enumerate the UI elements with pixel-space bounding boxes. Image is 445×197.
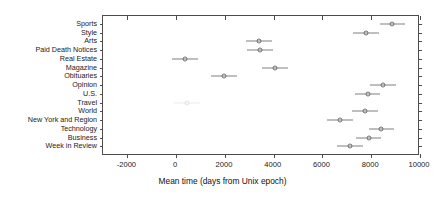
x-axis-tick-top (176, 16, 177, 20)
x-axis-tick-top (127, 16, 128, 20)
y-axis-tick (100, 129, 103, 130)
data-marker (185, 100, 190, 105)
y-axis-label: Travel (0, 97, 97, 106)
data-marker (362, 109, 367, 114)
y-axis-tick (100, 111, 103, 112)
data-marker (257, 39, 262, 44)
data-marker (257, 48, 262, 53)
x-axis-tick (274, 154, 275, 158)
y-axis-tick-right (418, 138, 422, 139)
data-marker (390, 21, 395, 26)
y-axis-tick (100, 85, 103, 86)
x-axis-title: Mean time (days from Unix epoch) (0, 176, 445, 186)
y-axis-label: New York and Region (0, 115, 97, 124)
y-axis-tick (100, 41, 103, 42)
x-axis-tick-label: 10000 (408, 160, 429, 169)
y-axis-tick (100, 94, 103, 95)
y-axis-label: Business (0, 132, 97, 141)
data-marker (221, 74, 226, 79)
y-axis-label: Sports (0, 18, 97, 27)
y-axis-label: Technology (0, 123, 97, 132)
y-axis-label: Arts (0, 36, 97, 45)
x-axis-tick (225, 154, 226, 158)
data-marker (338, 118, 343, 123)
x-axis-tick-label: 0 (173, 160, 177, 169)
y-axis-tick-right (418, 103, 422, 104)
y-axis-tick (100, 68, 103, 69)
x-axis-tick (176, 154, 177, 158)
y-axis-tick (100, 33, 103, 34)
data-marker (379, 126, 384, 131)
y-axis-tick (100, 76, 103, 77)
data-marker (365, 91, 370, 96)
x-axis-tick-top (322, 16, 323, 20)
y-axis-tick (100, 24, 103, 25)
data-marker (381, 83, 386, 88)
plot-area (102, 15, 419, 155)
y-axis-label: U.S. (0, 88, 97, 97)
y-axis-label: Paid Death Notices (0, 45, 97, 54)
y-axis-tick (100, 103, 103, 104)
x-axis-tick (322, 154, 323, 158)
y-axis-label: Opinion (0, 80, 97, 89)
y-axis-tick (100, 120, 103, 121)
y-axis-tick (100, 146, 103, 147)
data-marker (366, 135, 371, 140)
x-axis-tick-top (420, 16, 421, 20)
y-axis-tick (100, 50, 103, 51)
y-axis-tick-right (418, 111, 422, 112)
y-axis-tick-right (418, 85, 422, 86)
y-axis-label: Real Estate (0, 53, 97, 62)
data-marker (348, 144, 353, 149)
y-axis-tick-right (418, 68, 422, 69)
y-axis-label: Style (0, 27, 97, 36)
x-axis-tick-label: 4000 (264, 160, 281, 169)
y-axis-label: Week in Review (0, 141, 97, 150)
y-axis-tick-right (418, 50, 422, 51)
y-axis-tick (100, 138, 103, 139)
y-axis-tick-right (418, 120, 422, 121)
y-axis-tick-right (418, 76, 422, 77)
x-axis-tick-label: -2000 (117, 160, 136, 169)
data-marker (272, 65, 277, 70)
x-axis-tick-label: 2000 (215, 160, 232, 169)
y-axis-tick-right (418, 146, 422, 147)
y-axis-label: World (0, 106, 97, 115)
x-axis-tick-label: 8000 (362, 160, 379, 169)
x-axis-tick-top (274, 16, 275, 20)
x-axis-tick (127, 154, 128, 158)
x-axis-tick-label: 6000 (313, 160, 330, 169)
y-axis-tick-right (418, 33, 422, 34)
y-axis-tick-right (418, 24, 422, 25)
y-axis-label: Magazine (0, 62, 97, 71)
chart-root: SportsStyleArtsPaid Death NoticesReal Es… (0, 0, 445, 197)
y-axis-tick-right (418, 59, 422, 60)
y-axis-label: Obituaries (0, 71, 97, 80)
x-axis-tick-top (371, 16, 372, 20)
data-marker (363, 30, 368, 35)
y-axis-tick (100, 59, 103, 60)
data-marker (183, 56, 188, 61)
y-axis-tick-right (418, 94, 422, 95)
x-axis-tick (371, 154, 372, 158)
y-axis-tick-right (418, 129, 422, 130)
y-axis-tick-right (418, 41, 422, 42)
x-axis-tick (420, 154, 421, 158)
x-axis-tick-top (225, 16, 226, 20)
